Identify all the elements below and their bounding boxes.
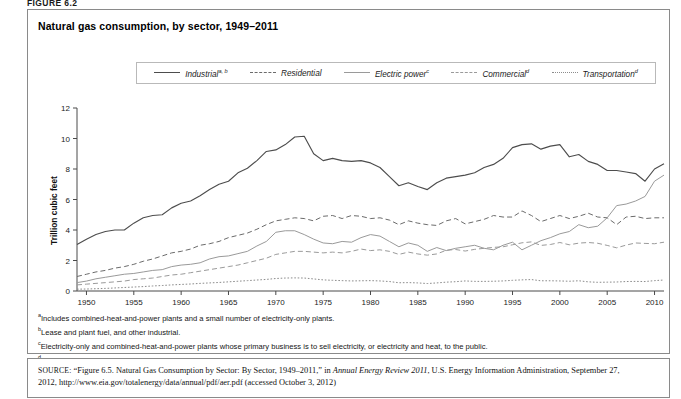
series-line-transportation: [77, 278, 664, 289]
source-text-1: “Figure 6.5. Natural Gas Consumption by …: [71, 366, 332, 375]
footnote: bLease and plant fuel, and other industr…: [38, 324, 668, 338]
x-tick-label: 2005: [598, 298, 616, 307]
legend-swatch-icon: [451, 69, 477, 77]
y-tick-label: 8: [66, 165, 71, 174]
source-prefix: SOURCE:: [38, 366, 71, 375]
chart-legend: Industriala, bResidentialElectric powerc…: [136, 62, 656, 84]
legend-label: Electric powerc: [375, 68, 429, 79]
page-title: Natural gas consumption, by sector, 1949…: [38, 20, 278, 32]
figure-label: FIGURE 6.2: [27, 0, 77, 8]
footnote: cElectricity-only and combined-heat-and-…: [38, 338, 668, 352]
x-tick-label: 2010: [646, 298, 664, 307]
x-tick-label: 1995: [504, 298, 522, 307]
x-tick-label: 1990: [456, 298, 474, 307]
legend-item-residential: Residential: [250, 69, 322, 78]
series-line-electric-power: [77, 175, 664, 283]
legend-item-electric-power: Electric powerc: [344, 68, 429, 79]
legend-item-commercial: Commerciald: [451, 68, 529, 79]
legend-item-transportation: Transportationd: [552, 68, 638, 79]
x-tick-label: 1985: [409, 298, 427, 307]
legend-item-industrial: Industriala, b: [154, 68, 228, 79]
y-tick-label: 6: [66, 196, 71, 205]
source-note: SOURCE: “Figure 6.5. Natural Gas Consump…: [38, 365, 638, 389]
legend-swatch-icon: [344, 69, 370, 77]
figure-page: FIGURE 6.2 Natural gas consumption, by s…: [0, 0, 681, 399]
legend-label: Industriala, b: [185, 68, 228, 79]
footnote-marker: c: [38, 340, 41, 346]
x-tick-label: 1960: [172, 298, 190, 307]
series-line-industrial: [77, 136, 664, 244]
y-tick-label: 2: [66, 257, 71, 266]
legend-swatch-icon: [154, 69, 180, 77]
source-italic-title: Annual Energy Review 2011: [333, 366, 428, 375]
footnote: aIncludes combined-heat-and-power plants…: [38, 310, 668, 324]
y-tick-label: 4: [66, 226, 71, 235]
footnote-marker: b: [38, 326, 41, 332]
x-tick-label: 1965: [220, 298, 238, 307]
x-tick-label: 1975: [314, 298, 332, 307]
y-tick-label: 12: [61, 104, 70, 113]
x-tick-label: 2000: [551, 298, 569, 307]
legend-label: Transportationd: [583, 68, 638, 79]
series-line-commercial: [77, 242, 664, 285]
y-tick-label: 0: [66, 287, 71, 296]
x-tick-label: 1980: [362, 298, 380, 307]
legend-label: Residential: [281, 69, 322, 78]
x-tick-label: 1970: [267, 298, 285, 307]
plot-area: Trillion cubic feet 02468101219501955196…: [27, 95, 670, 310]
x-tick-label: 1950: [78, 298, 96, 307]
footnote-marker: a: [38, 312, 41, 318]
line-chart: 0246810121950195519601965197019751980198…: [27, 95, 670, 310]
legend-swatch-icon: [250, 69, 276, 77]
legend-label: Commerciald: [482, 68, 529, 79]
y-tick-label: 10: [61, 135, 70, 144]
legend-swatch-icon: [552, 69, 578, 77]
x-tick-label: 1955: [125, 298, 143, 307]
